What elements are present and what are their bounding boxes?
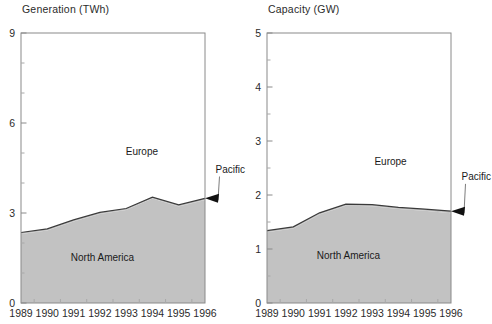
x-tick-label: 1991: [62, 307, 86, 319]
callout-label-pacific: Pacific: [216, 164, 245, 175]
x-tick-label: 1994: [141, 307, 165, 319]
x-tick-label: 1989: [255, 307, 279, 319]
x-tick-label: 1990: [282, 307, 306, 319]
series-label-europe: Europe: [374, 156, 407, 167]
x-tick-label: 1993: [114, 307, 138, 319]
x-tick-label: 1992: [88, 307, 112, 319]
y-tick-label: 2: [255, 189, 261, 201]
series-label-europe: Europe: [126, 146, 159, 157]
x-tick-label: 1996: [439, 307, 463, 319]
x-tick-label: 1989: [9, 307, 33, 319]
callout-arrowhead: [205, 194, 219, 203]
x-tick-label: 1995: [413, 307, 437, 319]
y-tick-label: 1: [255, 243, 261, 255]
y-tick-label: 5: [255, 27, 261, 39]
y-tick-label: 4: [255, 81, 261, 93]
x-tick-label: 1992: [334, 307, 358, 319]
callout-label-pacific: Pacific: [462, 171, 491, 182]
x-tick-label: 1991: [308, 307, 332, 319]
figure-root: Generation (TWh) 03691989199019911992199…: [0, 0, 492, 324]
generation-area-chart: 036919891990199119921993199419951996Euro…: [0, 0, 246, 324]
y-tick-label: 3: [255, 135, 261, 147]
x-tick-label: 1995: [167, 307, 191, 319]
series-label-north-america: North America: [71, 252, 135, 263]
chart-panel-capacity: Capacity (GW) 01234519891990199119921993…: [246, 0, 492, 324]
x-tick-label: 1993: [360, 307, 384, 319]
capacity-area-chart: 01234519891990199119921993199419951996Eu…: [246, 0, 492, 324]
y-tick-label: 3: [9, 207, 15, 219]
x-tick-label: 1994: [387, 307, 411, 319]
x-tick-label: 1990: [36, 307, 60, 319]
y-tick-label: 6: [9, 117, 15, 129]
y-tick-label: 9: [9, 27, 15, 39]
chart-panel-generation: Generation (TWh) 03691989199019911992199…: [0, 0, 246, 324]
series-label-north-america: North America: [317, 250, 381, 261]
callout-arrowhead: [451, 207, 465, 216]
x-tick-label: 1996: [193, 307, 217, 319]
area-band-north-america: [21, 199, 205, 303]
